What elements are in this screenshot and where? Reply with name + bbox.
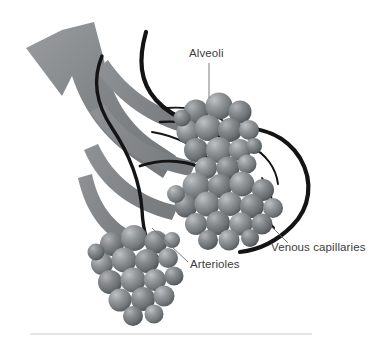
label-alveoli: Alveoli: [189, 47, 224, 59]
label-arterioles: Arterioles: [190, 258, 240, 270]
label-venous-capillaries: Venous capillaries: [271, 241, 366, 253]
alveoli-capillaries-diagram: Alveoli and pulmonary capillaries diagra…: [0, 0, 372, 342]
